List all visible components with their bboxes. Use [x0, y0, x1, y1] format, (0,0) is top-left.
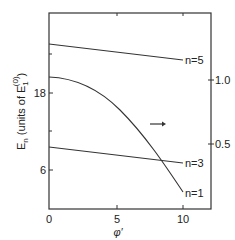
x-tick-label: 0 [46, 213, 52, 225]
chart-canvas: 0 5 10 6 18 0.5 1.0 φ′ En (units of E1(0… [0, 0, 235, 240]
arrow-right-icon [150, 122, 166, 127]
curve-n1 [49, 77, 183, 192]
y-tick-label: 6 [40, 164, 46, 176]
curve-n5 [49, 44, 183, 60]
svg-text:En (units of E1(0)): En (units of E1(0)) [11, 73, 30, 150]
y-axis-title: En (units of E1(0)) [11, 73, 30, 150]
x-axis-title: φ′ [113, 226, 123, 238]
plot-frame [49, 13, 211, 209]
curve-label-n5: n=5 [185, 54, 204, 66]
x-tick-label: 5 [114, 213, 120, 225]
y-tick-label: 18 [34, 87, 46, 99]
y2-tick-label: 1.0 [215, 74, 230, 86]
x-tick-label: 10 [177, 213, 189, 225]
curve-n3 [49, 147, 183, 163]
curve-label-n3: n=3 [185, 157, 204, 169]
y2-tick-label: 0.5 [215, 138, 230, 150]
curve-label-n1: n=1 [185, 187, 204, 199]
